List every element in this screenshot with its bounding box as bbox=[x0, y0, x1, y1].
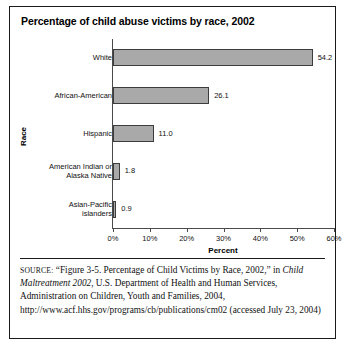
x-tick-mark bbox=[260, 228, 261, 232]
y-tick-label: American Indian orAlaska Native bbox=[32, 162, 112, 180]
bar bbox=[113, 201, 116, 218]
y-tick-label-line: Alaska Native bbox=[32, 171, 112, 180]
source-note: SOURCE: “Figure 3-5. Percentage of Child… bbox=[20, 264, 326, 317]
y-tick-label-line: American Indian or bbox=[32, 162, 112, 171]
x-tick-mark bbox=[150, 228, 151, 232]
bar-value-label: 54.2 bbox=[318, 53, 333, 62]
y-tick-label-line: islanders bbox=[32, 209, 112, 218]
x-tick-label: 30% bbox=[207, 234, 241, 243]
bar-value-label: 11.0 bbox=[159, 129, 173, 138]
bar-value-label: 26.1 bbox=[214, 91, 229, 100]
source-text-part1: “Figure 3-5. Percentage of Child Victims… bbox=[53, 265, 282, 275]
chart-plot-area: Race WhiteAfrican-AmericanHispanicAmeric… bbox=[10, 37, 335, 249]
bar bbox=[113, 163, 120, 180]
x-tick-label: 20% bbox=[170, 234, 204, 243]
y-tick-label: Hispanic bbox=[32, 129, 112, 138]
y-tick-label-line: African-American bbox=[32, 91, 112, 100]
y-axis-title: Race bbox=[19, 117, 28, 157]
x-tick-mark bbox=[113, 228, 114, 232]
bar bbox=[113, 125, 154, 142]
y-tick-label-line: Asian-Pacific bbox=[32, 200, 112, 209]
bar-value-label: 0.9 bbox=[121, 204, 131, 213]
y-tick-label: African-American bbox=[32, 91, 112, 100]
x-tick-label: 10% bbox=[133, 234, 167, 243]
y-tick-label-line: Hispanic bbox=[32, 129, 112, 138]
x-tick-mark bbox=[297, 228, 298, 232]
x-tick-label: 60% bbox=[317, 234, 346, 243]
x-tick-mark bbox=[334, 228, 335, 232]
x-tick-mark bbox=[224, 228, 225, 232]
bar bbox=[113, 87, 209, 104]
y-tick-label: Asian-Pacificislanders bbox=[32, 200, 112, 218]
bar bbox=[113, 49, 313, 66]
x-tick-mark bbox=[187, 228, 188, 232]
y-tick-label: White bbox=[32, 53, 112, 62]
x-axis-title: Percent bbox=[112, 246, 334, 255]
x-tick-label: 50% bbox=[280, 234, 314, 243]
x-tick-label: 40% bbox=[243, 234, 277, 243]
bar-value-label: 1.8 bbox=[125, 166, 135, 175]
page-title: Percentage of child abuse victims by rac… bbox=[21, 15, 321, 27]
figure-container: Percentage of child abuse victims by rac… bbox=[9, 6, 336, 339]
y-tick-label-line: White bbox=[32, 53, 112, 62]
source-label: SOURCE: bbox=[20, 266, 53, 275]
x-tick-label: 0% bbox=[96, 234, 130, 243]
y-axis-tick-labels: WhiteAfrican-AmericanHispanicAmerican In… bbox=[32, 37, 112, 227]
source-divider bbox=[20, 258, 325, 259]
